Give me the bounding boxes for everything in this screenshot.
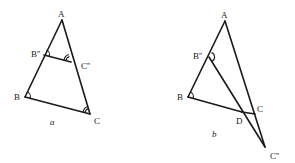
label-b-vertex-a: A [221,10,228,20]
label-a-vertex-a: A [58,9,65,19]
segment-bd [188,97,242,112]
segment-b2c2 [209,57,265,147]
figure-a: A B'' C'' B C a [14,9,100,127]
caption-b: b [212,129,217,139]
angle-mark-b2 [212,53,215,62]
label-a-vertex-b: B [14,92,20,102]
segment-bc [25,97,90,114]
caption-a: a [50,117,55,127]
segment-ac2 [225,21,265,147]
label-b-vertex-d: D [236,116,243,126]
label-b-vertex-c: C [257,104,263,114]
label-b-vertex-c2: C'' [270,151,280,161]
similar-triangles-diagram: A B'' C'' B C a A B'' B C D C'' b [0,0,295,163]
label-a-vertex-b2: B'' [31,49,41,59]
label-b-vertex-b: B [177,92,183,102]
angle-mark-c2-inner [66,57,69,61]
figure-b: A B'' B C D C'' b [177,10,280,161]
label-a-vertex-c: C [94,116,100,126]
angle-mark-c-inner [85,109,88,113]
label-a-vertex-c2: C'' [81,61,91,71]
label-b-vertex-b2: B'' [193,51,203,61]
